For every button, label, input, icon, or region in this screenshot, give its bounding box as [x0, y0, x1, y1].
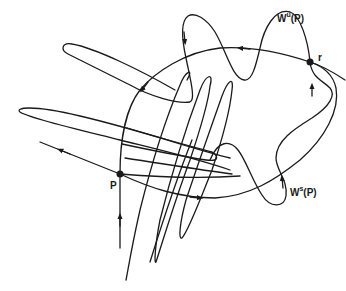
label-sup: u: [286, 11, 290, 18]
homoclinic-tangle-diagram: [0, 0, 346, 291]
homoclinic-point-r: [307, 59, 314, 66]
point-p-label: P: [110, 180, 117, 191]
arrow-left-icon: [60, 150, 70, 154]
left-long-loop: [19, 108, 230, 170]
label-sup: s: [299, 185, 303, 192]
unstable-manifold-label: Wu(P): [277, 12, 304, 24]
point-r-label: r: [318, 52, 322, 63]
arrow-down-icon: [184, 32, 185, 42]
label-tail: (P): [303, 187, 316, 198]
stable-manifold-label: Ws(P): [290, 186, 317, 198]
horizontal-strand-1: [120, 174, 240, 177]
unstable-direction-left: [40, 142, 120, 174]
label-tail: (P): [291, 13, 304, 24]
fixed-point-p: [117, 171, 124, 178]
